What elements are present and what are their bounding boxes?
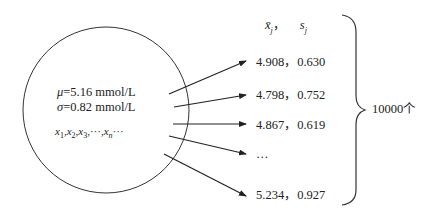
arrow-sample-4 xyxy=(169,136,246,154)
sigma-label: σ=0.82 mmol/L xyxy=(57,100,136,114)
arrow-sample-1 xyxy=(169,61,246,94)
sample-stat-2: 4.798，0.752 xyxy=(256,88,325,102)
arrow-sample-2 xyxy=(174,95,246,107)
sample-sequence: x1,x2,x3,···,xn··· xyxy=(55,124,124,143)
mu-label: μ=5.16 mmol/L xyxy=(57,85,136,99)
column-header: x̄j，sj xyxy=(265,18,307,38)
sample-stat-1: 4.908，0.630 xyxy=(256,55,325,69)
sample-stat-3: 4.867，0.619 xyxy=(256,118,325,132)
sample-stat-5: 5.234，0.927 xyxy=(256,188,325,202)
brace-count-label: 10000个 xyxy=(372,102,416,116)
arrow-sample-5 xyxy=(164,154,246,196)
sample-stat-ellipsis: … xyxy=(256,147,269,161)
right-brace xyxy=(342,15,365,205)
